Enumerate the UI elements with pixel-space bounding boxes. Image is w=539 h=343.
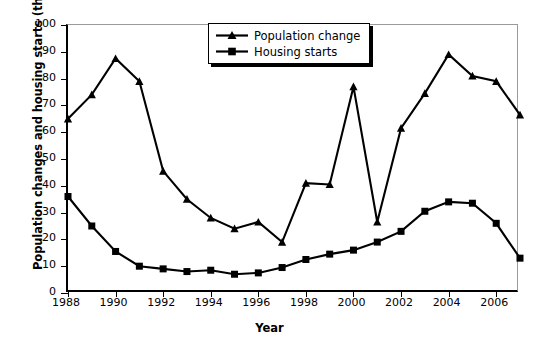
data-point-square (88, 223, 95, 230)
y-axis-tick-label: 10 (22, 258, 56, 271)
y-axis-tick (61, 266, 68, 267)
data-point-square (231, 271, 238, 278)
x-axis-tick-label: 1988 (43, 296, 89, 309)
data-point-square (207, 267, 214, 274)
plot-area (66, 24, 518, 292)
y-axis-tick (61, 25, 68, 26)
x-axis-tick-label: 2002 (376, 296, 422, 309)
y-axis-tick (61, 79, 68, 80)
data-point-square (398, 228, 405, 235)
x-axis-tick-label: 1992 (138, 296, 184, 309)
y-axis-tick (61, 105, 68, 106)
data-point-square (350, 247, 357, 254)
series-line (68, 197, 520, 275)
x-axis-tick-label: 2004 (424, 296, 470, 309)
y-axis-tick-label: 100 (22, 17, 56, 30)
y-axis-tick-label: 20 (22, 231, 56, 244)
y-axis-tick-label: 90 (22, 44, 56, 57)
y-axis-tick (61, 213, 68, 214)
legend-item-population-change: Population change (215, 28, 360, 43)
y-axis-tick-label: 80 (22, 71, 56, 84)
data-point-square (255, 269, 262, 276)
data-point-square (374, 239, 381, 246)
data-point-square (65, 193, 72, 200)
y-axis-tick-label: 70 (22, 97, 56, 110)
y-axis-tick (61, 186, 68, 187)
data-point-square (279, 264, 286, 271)
x-axis-tick-label: 2006 (471, 296, 517, 309)
data-point-square (112, 248, 119, 255)
data-point-square (326, 251, 333, 258)
y-axis-tick (61, 132, 68, 133)
data-point-square (517, 255, 524, 262)
x-axis-tick-label: 2000 (328, 296, 374, 309)
series-housing-starts (65, 193, 524, 278)
chart-legend: Population change Housing starts (208, 23, 370, 64)
x-axis-tick-label: 1994 (186, 296, 232, 309)
data-point-triangle (111, 54, 119, 62)
data-point-triangle (445, 50, 453, 58)
data-point-square (421, 208, 428, 215)
legend-item-housing-starts: Housing starts (215, 44, 360, 59)
data-point-square (469, 200, 476, 207)
data-point-square (183, 268, 190, 275)
y-axis-tick-label: 50 (22, 151, 56, 164)
x-axis-tick-label: 1998 (281, 296, 327, 309)
chart-container: Population changes and housing starts (t… (0, 0, 539, 343)
y-axis-tick (61, 159, 68, 160)
x-axis-tick-label: 1990 (91, 296, 137, 309)
triangle-marker-icon (215, 29, 249, 42)
data-point-square (160, 265, 167, 272)
data-point-square (136, 263, 143, 270)
data-point-triangle (159, 167, 167, 175)
square-marker-icon (215, 45, 249, 58)
y-axis-tick (61, 239, 68, 240)
y-axis-tick (61, 52, 68, 53)
data-point-triangle (373, 218, 381, 226)
x-axis-title: Year (0, 321, 539, 335)
legend-label: Housing starts (254, 45, 337, 59)
data-point-triangle (349, 83, 357, 91)
y-axis-tick-label: 60 (22, 124, 56, 137)
data-series-layer (68, 25, 520, 293)
series-population-change (64, 50, 524, 245)
data-point-square (302, 256, 309, 263)
data-point-square (493, 220, 500, 227)
y-axis-tick-label: 30 (22, 205, 56, 218)
y-axis-tick-label: 40 (22, 178, 56, 191)
legend-label: Population change (254, 29, 360, 43)
series-line (68, 54, 520, 242)
x-axis-tick-label: 1996 (233, 296, 279, 309)
y-axis-tick (61, 293, 68, 294)
data-point-square (445, 198, 452, 205)
